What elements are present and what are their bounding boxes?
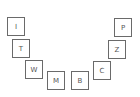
tile-w[interactable]: W	[25, 60, 43, 79]
tile-label: C	[100, 67, 105, 75]
tile-b[interactable]: B	[71, 71, 89, 90]
tile-label: B	[78, 77, 83, 85]
tile-label: Z	[115, 46, 120, 54]
tile-label: I	[15, 23, 17, 31]
tile-label: P	[121, 24, 125, 32]
tile-label: M	[53, 77, 59, 85]
tile-z[interactable]: Z	[108, 40, 126, 59]
tile-c[interactable]: C	[93, 61, 111, 80]
tile-m[interactable]: M	[47, 71, 65, 90]
tile-t[interactable]: T	[12, 39, 30, 58]
tile-label: T	[19, 45, 23, 53]
tile-label: W	[31, 66, 38, 74]
tile-p[interactable]: P	[114, 18, 132, 37]
tile-i[interactable]: I	[7, 17, 25, 36]
